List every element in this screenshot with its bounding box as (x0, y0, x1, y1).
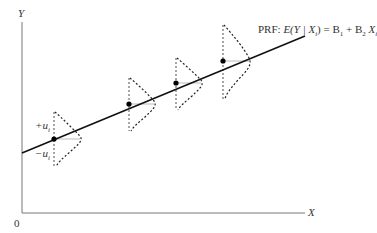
x-axis-label: X (308, 206, 315, 218)
minus-u-label: −ui (35, 147, 50, 162)
y-axis-label: Y (18, 7, 24, 19)
prf-equation-label: PRF: E(Y | Xi) = B1 + B2 Xi (258, 23, 377, 38)
prf-line (22, 36, 305, 153)
distribution-4 (223, 25, 250, 99)
distribution-1 (54, 112, 81, 167)
origin-label: 0 (14, 217, 20, 229)
plus-u-label: +ui (35, 119, 50, 134)
mean-point-2 (126, 101, 131, 106)
mean-point-4 (220, 58, 225, 63)
mean-point-1 (51, 136, 56, 141)
distribution-2 (129, 78, 155, 131)
mean-point-3 (173, 80, 178, 85)
